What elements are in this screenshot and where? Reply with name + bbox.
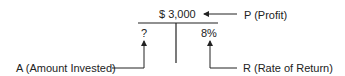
profit-label: P (Profit) (244, 9, 287, 21)
amount-label: A (Amount Invested) (16, 62, 116, 74)
rate-value: 8% (201, 27, 217, 39)
profit-value: $ 3,000 (159, 8, 196, 20)
rate-label: R (Rate of Return) (243, 62, 333, 74)
amount-value: ? (141, 27, 147, 39)
